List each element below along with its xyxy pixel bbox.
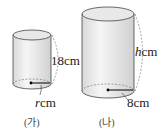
radius-label-a: rcm <box>35 95 56 111</box>
radius-label-b: 8cm <box>127 95 149 111</box>
caption-a: (가) <box>24 114 40 129</box>
caption-b: (나) <box>99 114 115 129</box>
height-label-a: 18cm <box>51 53 80 69</box>
cylinder-b <box>82 7 143 100</box>
height-label-b: hcm <box>135 44 157 60</box>
